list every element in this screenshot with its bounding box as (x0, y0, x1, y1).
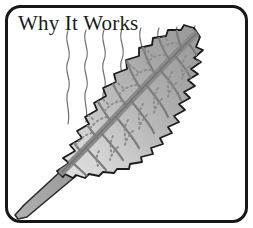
leaf-stem (15, 170, 76, 219)
page-title: Why It Works (18, 11, 138, 35)
leaf-illustration: Why It Works (0, 0, 253, 228)
figure-panel: Why It Works (0, 0, 253, 228)
transpiration-line (85, 30, 88, 122)
transpiration-line (67, 31, 70, 124)
